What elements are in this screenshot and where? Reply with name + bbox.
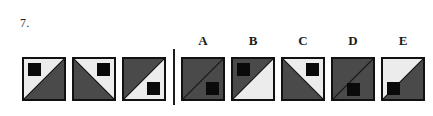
puzzle-root: 7. ABCDE (0, 0, 433, 116)
stem-cell-3[interactable] (122, 57, 166, 101)
black-square-marker (206, 82, 219, 95)
option-b[interactable] (231, 57, 275, 101)
option-a[interactable] (181, 57, 225, 101)
question-number: 7. (20, 16, 29, 31)
black-square-marker (387, 82, 400, 95)
black-square-marker (347, 83, 360, 96)
stem-cell-1[interactable] (22, 57, 66, 101)
option-label-e: E (381, 33, 425, 49)
option-d[interactable] (331, 57, 375, 101)
option-c[interactable] (281, 57, 325, 101)
option-label-d: D (331, 33, 375, 49)
option-e[interactable] (381, 57, 425, 101)
option-label-b: B (231, 33, 275, 49)
option-label-c: C (281, 33, 325, 49)
black-square-marker (237, 63, 250, 76)
black-square-marker (97, 63, 110, 76)
stem-cell-2[interactable] (72, 57, 116, 101)
black-square-marker (28, 63, 41, 76)
stem-options-divider (173, 49, 175, 105)
black-square-marker (147, 82, 160, 95)
option-label-a: A (181, 33, 225, 49)
black-square-marker (306, 63, 319, 76)
